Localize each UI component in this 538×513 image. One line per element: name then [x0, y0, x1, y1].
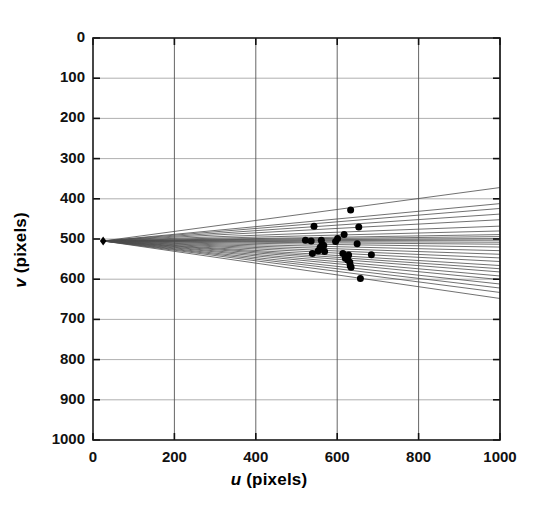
x-axis-tick-label: 200	[144, 448, 204, 465]
data-point	[354, 240, 361, 247]
y-axis-tick-label: 400	[60, 189, 85, 206]
chart-figure: 01002003004005006007008009001000 0200400…	[0, 0, 538, 513]
data-point	[357, 275, 364, 282]
y-axis-tick-label: 1000	[52, 430, 85, 447]
x-axis-title: u (pixels)	[0, 470, 538, 490]
x-axis-tick-label: 800	[389, 448, 449, 465]
data-point	[355, 223, 362, 230]
data-point	[308, 238, 315, 245]
data-point	[332, 238, 339, 245]
y-axis-tick-label: 500	[60, 229, 85, 246]
x-axis-tick-label: 0	[63, 448, 123, 465]
y-axis-tick-label: 300	[60, 149, 85, 166]
x-axis-tick-label: 600	[307, 448, 367, 465]
x-axis-tick-label: 1000	[470, 448, 530, 465]
data-point	[368, 251, 375, 258]
data-point	[347, 207, 354, 214]
y-axis-tick-label: 800	[60, 350, 85, 367]
y-axis-tick-label: 700	[60, 309, 85, 326]
x-axis-variable: u	[231, 470, 242, 489]
y-axis-unit: (pixels)	[11, 212, 30, 273]
data-point	[348, 264, 355, 271]
data-point	[341, 231, 348, 238]
y-axis-tick-label: 600	[60, 269, 85, 286]
data-point	[309, 250, 316, 257]
y-axis-tick-label: 100	[60, 68, 85, 85]
x-axis-tick-label: 400	[226, 448, 286, 465]
y-axis-tick-label: 900	[60, 390, 85, 407]
y-axis-variable: v	[11, 278, 30, 288]
y-axis-tick-label: 0	[77, 28, 85, 45]
x-axis-unit: (pixels)	[246, 470, 307, 489]
data-point	[321, 248, 328, 255]
y-axis-title: v (pixels)	[6, 150, 36, 350]
data-point	[311, 223, 318, 230]
y-axis-tick-label: 200	[60, 108, 85, 125]
